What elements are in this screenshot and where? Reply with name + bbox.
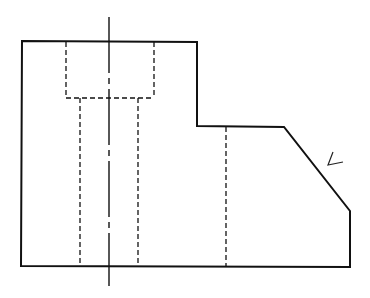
part-outline [21,41,350,267]
technical-drawing [0,0,370,298]
view-direction-mark [328,152,343,165]
counterbore-hidden-lines [66,42,154,98]
